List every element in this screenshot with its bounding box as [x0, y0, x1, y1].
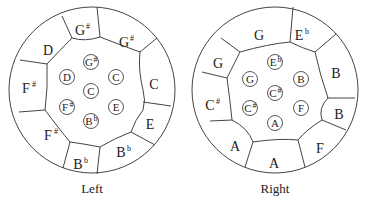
- note-label: A: [271, 117, 279, 129]
- left-inner-boundary: [45, 37, 145, 147]
- outer-note-E: E: [146, 117, 155, 132]
- note-label: B: [73, 157, 82, 172]
- outer-note-E-flat: Eb: [295, 27, 309, 43]
- outer-note-C: C: [149, 77, 158, 92]
- sharp-sign: #: [253, 101, 257, 110]
- note-label: B: [334, 107, 343, 122]
- tonefield-diagram: DG#G#CEBbBbF#F# G#DCCF#EBb GEbBBFAAC#G E…: [0, 0, 367, 203]
- sharp-sign: #: [70, 100, 74, 109]
- note-label: D: [43, 43, 53, 58]
- outer-note-B-flat: Bb: [73, 156, 88, 172]
- sharp-sign: #: [278, 86, 282, 95]
- note-label: C: [244, 102, 251, 114]
- inner-note-D: D: [60, 70, 75, 85]
- sharp-sign: #: [216, 97, 220, 106]
- note-label: E: [295, 28, 304, 43]
- outer-note-D: D: [43, 43, 53, 58]
- sharp-sign: #: [54, 127, 58, 136]
- note-label: C: [112, 71, 119, 83]
- note-label: F: [316, 141, 324, 156]
- right-outer-notes: GEbBBFAAC#G: [205, 27, 343, 171]
- outer-note-A: A: [230, 139, 241, 154]
- note-label: G: [246, 73, 254, 85]
- note-label: D: [63, 71, 71, 83]
- note-label: G: [213, 56, 223, 71]
- outer-note-G: G: [254, 28, 264, 43]
- outer-note-G-sharp: G#: [75, 22, 90, 38]
- note-label: F: [44, 128, 52, 143]
- note-label: B: [116, 145, 125, 160]
- inner-note-E: E: [109, 100, 124, 115]
- note-label: B: [331, 66, 340, 81]
- outer-note-G: G: [213, 56, 223, 71]
- inner-note-F: F: [294, 101, 309, 116]
- note-label: E: [146, 117, 155, 132]
- sharp-sign: #: [94, 55, 98, 64]
- note-label: G: [75, 23, 85, 38]
- note-label: B: [297, 73, 304, 85]
- inner-note-E-flat: Eb: [268, 55, 283, 70]
- note-label: F: [62, 101, 68, 113]
- flat-sign: b: [84, 156, 88, 165]
- right-caption: Right: [261, 181, 290, 196]
- note-label: G: [85, 56, 93, 68]
- note-label: A: [269, 156, 280, 171]
- left-inner-notes: G#DCCF#EBb: [60, 55, 124, 129]
- inner-note-G-sharp: G#: [84, 55, 99, 70]
- inner-note-F-sharp: F#: [60, 100, 75, 115]
- inner-note-B: B: [294, 72, 309, 87]
- note-label: E: [270, 56, 277, 68]
- inner-note-C-sharp: C#: [243, 101, 258, 116]
- outer-note-F: F: [316, 141, 324, 156]
- outer-note-F-sharp: F#: [44, 127, 58, 143]
- inner-note-C: C: [84, 84, 99, 99]
- note-label: C: [269, 87, 276, 99]
- outer-note-B-flat: Bb: [116, 144, 131, 160]
- outer-note-A: A: [269, 156, 280, 171]
- outer-note-G-sharp: G#: [119, 34, 134, 50]
- flat-sign: b: [94, 114, 98, 123]
- right-inner-notes: EbGBC#C#FA: [243, 55, 309, 131]
- outer-note-C-sharp: C#: [205, 97, 220, 113]
- flat-sign: b: [305, 27, 309, 36]
- inner-note-C: C: [109, 70, 124, 85]
- note-label: F: [22, 81, 30, 96]
- inner-note-B-flat: Bb: [84, 114, 99, 129]
- left-outer-notes: DG#G#CEBbBbF#F#: [22, 22, 159, 172]
- note-label: C: [149, 77, 158, 92]
- outer-note-B: B: [331, 66, 340, 81]
- sharp-sign: #: [130, 34, 134, 43]
- inner-note-G: G: [243, 72, 258, 87]
- outer-note-B: B: [334, 107, 343, 122]
- inner-note-C-sharp: C#: [268, 86, 283, 101]
- left-caption: Left: [81, 181, 103, 196]
- sharp-sign: #: [32, 80, 36, 89]
- note-label: E: [113, 101, 120, 113]
- flat-sign: b: [278, 55, 282, 64]
- sharp-sign: #: [86, 22, 90, 31]
- outer-note-F-sharp: F#: [22, 80, 36, 96]
- flat-sign: b: [127, 144, 131, 153]
- note-label: G: [119, 35, 129, 50]
- note-label: G: [254, 28, 264, 43]
- note-label: C: [205, 98, 214, 113]
- note-label: B: [85, 115, 92, 127]
- note-label: C: [87, 85, 94, 97]
- note-label: A: [230, 139, 241, 154]
- inner-note-A: A: [268, 116, 283, 131]
- note-label: F: [298, 102, 304, 114]
